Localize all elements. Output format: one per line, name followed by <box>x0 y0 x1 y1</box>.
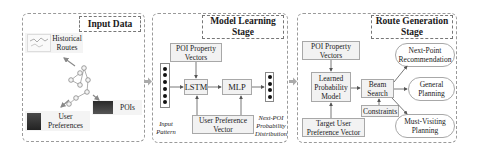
panel-arrow-1 <box>144 78 152 86</box>
arrow-to-pois <box>93 95 99 100</box>
poi-graph-icon <box>67 66 91 107</box>
connector-overlay <box>0 0 480 150</box>
panel-arrow-2 <box>289 78 297 86</box>
arrow-beam-to-next-point <box>394 66 407 82</box>
arrow-beam-to-must-visit <box>392 98 407 114</box>
arrow-to-historical-routes <box>64 58 75 66</box>
